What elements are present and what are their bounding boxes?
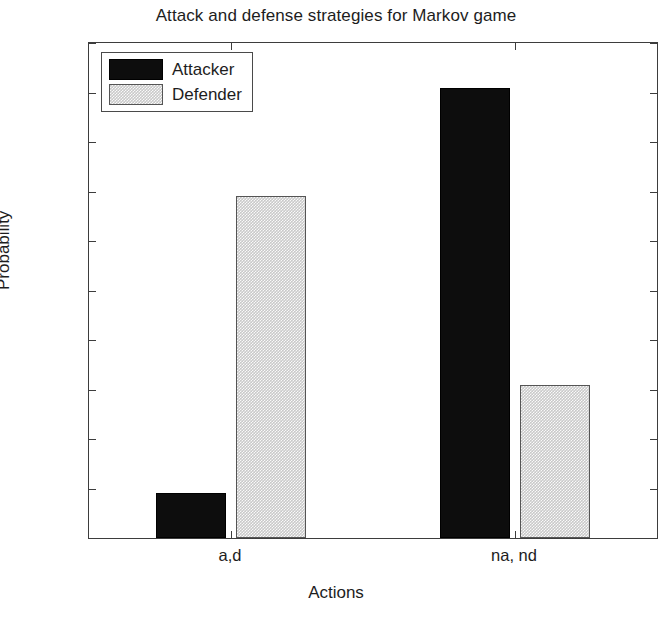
y-tick-mark: [650, 340, 657, 341]
y-tick-mark: [89, 142, 96, 143]
bar-attacker-1: [440, 88, 510, 538]
legend-label-defender: Defender: [172, 86, 242, 103]
x-tick-label: na, nd: [424, 546, 604, 565]
y-tick-mark: [650, 291, 657, 292]
y-tick-mark: [89, 439, 96, 440]
y-tick-mark: [650, 538, 657, 539]
legend-swatch-defender-icon: [109, 84, 163, 105]
y-tick-mark: [89, 192, 96, 193]
legend-entry-attacker: Attacker: [109, 59, 242, 80]
y-tick-mark: [89, 93, 96, 94]
bar-chart-figure: Attack and defense strategies for Markov…: [0, 0, 672, 622]
y-tick-mark: [89, 291, 96, 292]
y-tick-mark: [650, 489, 657, 490]
legend-swatch-attacker-icon: [109, 59, 163, 80]
y-axis-title: Probability: [0, 211, 14, 290]
plot-area: 00.10.20.30.40.50.60.70.80.91 Attacker D…: [88, 42, 658, 539]
y-tick-mark: [89, 241, 96, 242]
x-tick-mark: [515, 531, 516, 538]
y-tick-mark: [89, 340, 96, 341]
chart-title: Attack and defense strategies for Markov…: [0, 6, 672, 26]
y-tick-mark: [89, 390, 96, 391]
y-tick-mark: [89, 489, 96, 490]
bar-defender-1: [520, 385, 590, 538]
legend-label-attacker: Attacker: [172, 61, 234, 78]
chart-legend: Attacker Defender: [101, 52, 253, 112]
x-tick-mark: [231, 531, 232, 538]
y-tick-mark: [650, 439, 657, 440]
plot-inner: 00.10.20.30.40.50.60.70.80.91: [89, 43, 657, 538]
y-tick-mark: [89, 43, 96, 44]
bar-defender-0: [236, 196, 306, 538]
x-tick-mark: [231, 43, 232, 50]
bar-attacker-0: [156, 493, 226, 538]
y-tick-mark: [650, 142, 657, 143]
x-axis-title: Actions: [0, 583, 672, 603]
y-tick-mark: [650, 390, 657, 391]
x-tick-mark: [515, 43, 516, 50]
y-tick-mark: [650, 93, 657, 94]
y-tick-mark: [650, 43, 657, 44]
y-tick-mark: [650, 192, 657, 193]
legend-entry-defender: Defender: [109, 84, 242, 105]
y-tick-mark: [89, 538, 96, 539]
x-tick-label: a,d: [140, 546, 320, 565]
y-tick-mark: [650, 241, 657, 242]
